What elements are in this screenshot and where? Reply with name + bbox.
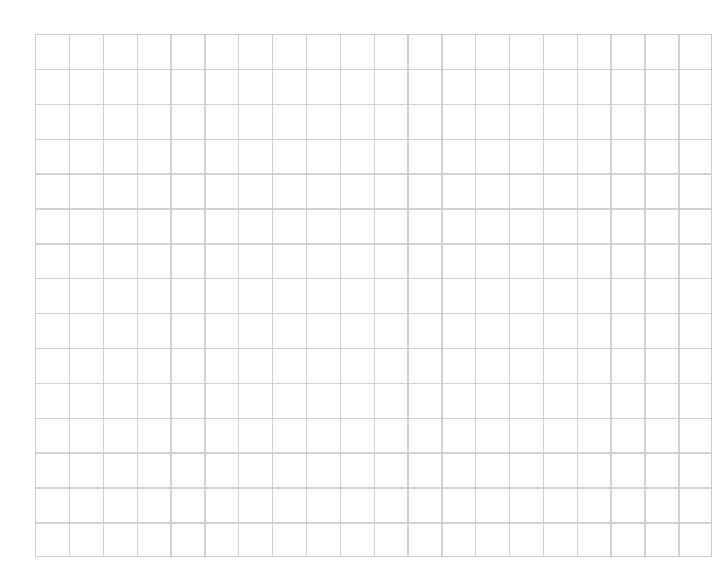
grid-line-vertical bbox=[69, 34, 70, 557]
grid-line-vertical bbox=[543, 34, 544, 557]
grid-line-vertical bbox=[35, 34, 36, 557]
grid-line-horizontal bbox=[35, 208, 712, 209]
grid-line-horizontal bbox=[35, 243, 712, 244]
grid-line-horizontal bbox=[35, 383, 712, 384]
grid-line-vertical bbox=[238, 34, 239, 557]
grid-line-horizontal bbox=[35, 173, 712, 174]
grid-line-vertical bbox=[475, 34, 476, 557]
page-root bbox=[0, 0, 727, 582]
grid-line-vertical bbox=[170, 34, 171, 557]
grid-line-horizontal bbox=[35, 487, 712, 488]
grid-line-vertical bbox=[272, 34, 273, 557]
grid-line-horizontal bbox=[35, 348, 712, 349]
grid-line-horizontal bbox=[35, 313, 712, 314]
grid-line-vertical bbox=[407, 34, 408, 557]
grid-line-vertical bbox=[678, 34, 679, 557]
grid-line-vertical bbox=[711, 34, 712, 557]
grid-line-vertical bbox=[610, 34, 611, 557]
grid-line-vertical bbox=[509, 34, 510, 557]
grid-line-vertical bbox=[204, 34, 205, 557]
grid-line-vertical bbox=[137, 34, 138, 557]
grid-line-horizontal bbox=[35, 452, 712, 453]
grid-line-horizontal bbox=[35, 556, 712, 557]
graph-paper-grid bbox=[35, 34, 712, 557]
grid-line-horizontal bbox=[35, 34, 712, 35]
grid-line-horizontal bbox=[35, 522, 712, 523]
grid-lines-layer bbox=[35, 34, 712, 557]
grid-line-vertical bbox=[441, 34, 442, 557]
grid-line-horizontal bbox=[35, 104, 712, 105]
grid-line-horizontal bbox=[35, 418, 712, 419]
grid-line-horizontal bbox=[35, 69, 712, 70]
grid-line-vertical bbox=[374, 34, 375, 557]
grid-line-vertical bbox=[340, 34, 341, 557]
grid-line-vertical bbox=[577, 34, 578, 557]
grid-line-vertical bbox=[644, 34, 645, 557]
grid-line-horizontal bbox=[35, 139, 712, 140]
grid-line-vertical bbox=[103, 34, 104, 557]
grid-line-horizontal bbox=[35, 278, 712, 279]
grid-line-vertical bbox=[306, 34, 307, 557]
